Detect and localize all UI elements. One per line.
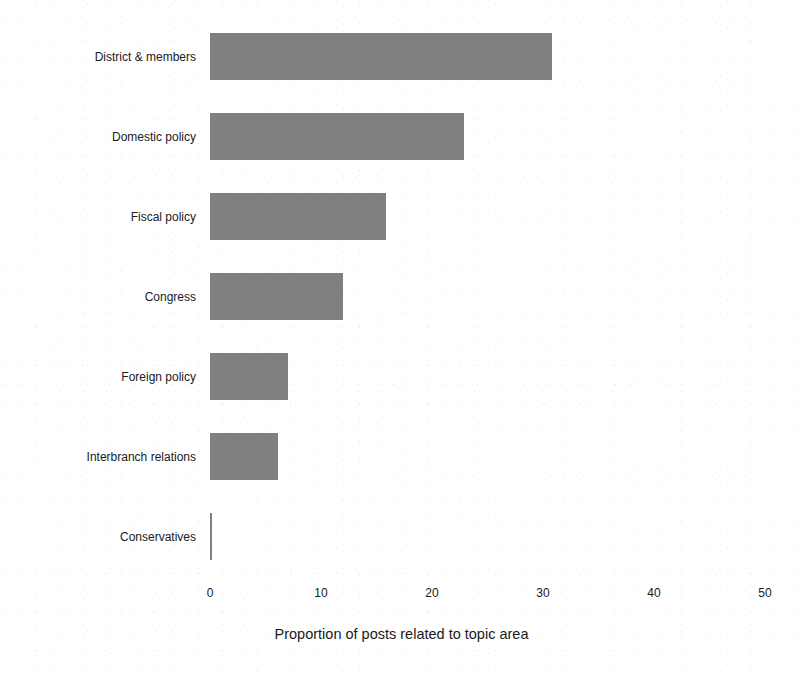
- category-axis-labels: District & membersDomestic policyFiscal …: [0, 18, 196, 580]
- category-label: Conservatives: [6, 530, 196, 544]
- x-tick-label: 20: [425, 586, 438, 600]
- bar: [210, 193, 386, 240]
- bar: [210, 33, 552, 80]
- x-tick-label: 0: [207, 586, 214, 600]
- bar-row: [210, 498, 770, 578]
- category-label: Fiscal policy: [6, 210, 196, 224]
- bar: [210, 273, 343, 320]
- value-axis-ticks: 01020304050: [210, 586, 770, 606]
- x-tick-label: 30: [536, 586, 549, 600]
- x-axis-title: Proportion of posts related to topic are…: [0, 626, 803, 642]
- bar: [210, 433, 278, 480]
- category-label: Congress: [6, 290, 196, 304]
- bar-row: [210, 258, 770, 338]
- bar: [210, 113, 464, 160]
- bar-row: [210, 98, 770, 178]
- bar-row: [210, 418, 770, 498]
- category-label: Interbranch relations: [6, 450, 196, 464]
- category-label: Foreign policy: [6, 370, 196, 384]
- bar: [210, 513, 212, 560]
- bar: [210, 353, 288, 400]
- bar-row: [210, 18, 770, 98]
- plot-area: [210, 18, 770, 580]
- bar-chart-figure: District & membersDomestic policyFiscal …: [0, 0, 803, 676]
- bar-row: [210, 338, 770, 418]
- chart-title: [0, 0, 803, 3]
- x-tick-label: 50: [758, 586, 771, 600]
- category-label: District & members: [6, 50, 196, 64]
- category-label: Domestic policy: [6, 130, 196, 144]
- x-tick-label: 40: [647, 586, 660, 600]
- bar-row: [210, 178, 770, 258]
- x-tick-label: 10: [314, 586, 327, 600]
